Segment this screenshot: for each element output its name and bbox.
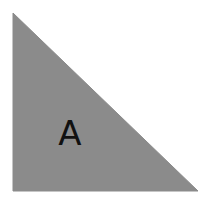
diagram-canvas: A [0, 0, 200, 203]
right-triangle [13, 13, 198, 191]
triangle-label: A [58, 113, 81, 153]
